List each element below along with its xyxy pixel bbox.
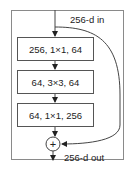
- add-symbol: +: [46, 137, 60, 151]
- layer-2: 64, 3×3, 64: [17, 70, 94, 94]
- output-label: 256-d out: [64, 152, 104, 163]
- input-label: 256-d in: [70, 14, 104, 25]
- layer-1: 256, 1×1, 64: [17, 37, 94, 61]
- layer-3: 64, 1×1, 256: [17, 103, 94, 127]
